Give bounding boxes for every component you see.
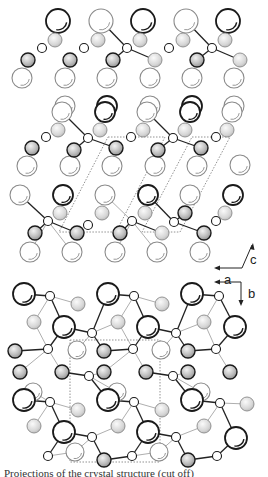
atom xyxy=(190,242,210,262)
atom xyxy=(97,68,117,88)
atom xyxy=(13,283,35,305)
atom xyxy=(27,419,41,433)
atom xyxy=(212,345,221,354)
atom xyxy=(197,226,211,240)
atom xyxy=(190,53,204,67)
atom xyxy=(53,185,73,205)
atom xyxy=(137,102,157,122)
atom xyxy=(223,365,237,379)
atom xyxy=(139,365,153,379)
atom xyxy=(27,315,41,329)
atom xyxy=(131,9,155,33)
atom xyxy=(95,102,115,122)
atom xyxy=(181,344,195,358)
atom xyxy=(137,421,159,443)
atom xyxy=(55,68,75,88)
atom xyxy=(46,9,70,33)
atom xyxy=(176,33,190,47)
atom xyxy=(180,102,200,122)
atom xyxy=(174,9,198,33)
atom xyxy=(140,68,160,88)
atom xyxy=(172,433,181,442)
atom xyxy=(44,345,53,354)
atom xyxy=(97,389,119,411)
atom xyxy=(63,53,77,67)
atom xyxy=(151,143,165,157)
atom xyxy=(170,218,179,227)
atom xyxy=(52,102,72,122)
atom xyxy=(97,344,111,358)
atom xyxy=(105,242,125,262)
arrowhead-a-top xyxy=(214,266,220,271)
atom xyxy=(148,53,162,67)
atom xyxy=(95,185,115,205)
atom xyxy=(60,156,80,176)
atom xyxy=(197,315,211,329)
atom xyxy=(138,185,158,205)
atom xyxy=(218,33,232,47)
atom xyxy=(230,155,250,175)
atom xyxy=(12,68,32,88)
atom xyxy=(91,33,105,47)
atom xyxy=(46,292,55,301)
atom xyxy=(20,242,40,262)
atom xyxy=(187,156,207,176)
atom xyxy=(155,297,169,311)
atom xyxy=(181,389,203,411)
atom xyxy=(97,283,119,305)
atom xyxy=(71,403,85,417)
atom xyxy=(182,68,202,88)
atom xyxy=(17,156,37,176)
atom xyxy=(10,185,30,205)
atom xyxy=(197,419,211,433)
atom xyxy=(84,221,93,230)
crystal-structure-figure: c a b xyxy=(0,0,268,477)
atom xyxy=(208,44,217,53)
atom xyxy=(150,443,168,461)
atom xyxy=(224,316,246,338)
atom xyxy=(113,226,127,240)
atom xyxy=(109,141,123,155)
atom xyxy=(28,226,42,240)
atom xyxy=(84,134,93,143)
atom xyxy=(133,33,147,47)
atom xyxy=(218,206,232,220)
atom xyxy=(178,123,192,137)
atom xyxy=(88,329,97,338)
atom xyxy=(70,226,84,240)
atom xyxy=(181,283,203,305)
atom xyxy=(48,33,62,47)
atom xyxy=(224,68,244,88)
atom xyxy=(233,53,247,67)
atom xyxy=(212,217,221,226)
arrowhead-c xyxy=(250,243,255,250)
atom xyxy=(155,403,169,417)
atom xyxy=(25,141,39,155)
atom xyxy=(44,217,53,226)
atom xyxy=(80,44,89,53)
atom xyxy=(97,453,111,467)
atom xyxy=(46,398,55,407)
atom xyxy=(71,297,85,311)
bond-lines xyxy=(15,21,247,460)
atom xyxy=(169,134,178,143)
atom xyxy=(89,9,113,33)
atom xyxy=(138,206,152,220)
atom xyxy=(38,44,47,53)
atom xyxy=(223,185,243,205)
atom xyxy=(212,133,221,142)
atom xyxy=(172,329,181,338)
atom xyxy=(13,389,35,411)
atom xyxy=(67,143,81,157)
atom xyxy=(215,292,224,301)
c-axis-label: c xyxy=(250,252,257,267)
atom xyxy=(102,156,122,176)
atom xyxy=(130,292,139,301)
atoms xyxy=(8,9,254,467)
atom xyxy=(106,53,120,67)
atom xyxy=(130,398,139,407)
atom xyxy=(127,133,136,142)
atom xyxy=(53,421,75,443)
atom xyxy=(180,185,200,205)
arrowhead-b xyxy=(239,300,244,306)
